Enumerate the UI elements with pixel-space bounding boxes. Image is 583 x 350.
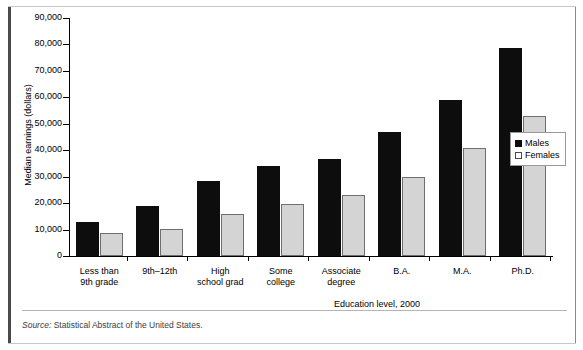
bar-females-6 — [463, 148, 486, 256]
bar-males-6 — [439, 100, 462, 256]
legend-label-females: Females — [525, 149, 560, 161]
bar-females-4 — [342, 195, 365, 256]
y-axis-tick-label: 0 — [16, 251, 62, 260]
category-label-line: degree — [304, 277, 378, 288]
bar-females-0 — [100, 233, 123, 256]
bar-males-2 — [197, 181, 220, 256]
y-axis-tick-mark — [63, 124, 69, 125]
category-label-line: 9th grade — [62, 277, 136, 288]
y-axis-tick-label: 30,000 — [16, 172, 62, 181]
category-label-7: Ph.D. — [486, 266, 560, 277]
legend-entry-males: Males — [515, 137, 560, 149]
bar-males-4 — [318, 159, 341, 256]
bar-males-3 — [257, 166, 280, 256]
y-axis-tick-mark — [63, 256, 69, 257]
bar-females-1 — [160, 229, 183, 256]
y-axis-tick-mark — [63, 71, 69, 72]
y-axis-tick-labels: 010,00020,00030,00040,00050,00060,00070,… — [16, 0, 62, 260]
y-axis-tick-label: 60,000 — [16, 92, 62, 101]
y-axis-tick-mark — [63, 44, 69, 45]
figure-bar-chart-median-earnings: Median earnings (dollars) 010,00020,0003… — [0, 0, 583, 350]
x-axis-title: Education level, 2000 — [277, 299, 477, 309]
legend-label-males: Males — [525, 137, 549, 149]
x-axis-tick-mark — [369, 257, 370, 261]
legend-entry-females: Females — [515, 149, 560, 161]
bar-males-1 — [136, 206, 159, 256]
x-axis-tick-mark — [490, 257, 491, 261]
y-axis-tick-label: 40,000 — [16, 145, 62, 154]
y-axis-tick-label: 20,000 — [16, 198, 62, 207]
y-axis-tick-label: 70,000 — [16, 66, 62, 75]
source-prefix: Source: — [22, 320, 51, 330]
y-axis-tick-mark — [63, 97, 69, 98]
bar-males-5 — [378, 132, 401, 256]
y-axis-tick-label: 50,000 — [16, 119, 62, 128]
chart-legend: Males Females — [510, 132, 566, 166]
y-axis-tick-label: 80,000 — [16, 39, 62, 48]
legend-swatch-males-icon — [515, 140, 522, 147]
y-axis-tick-mark — [63, 230, 69, 231]
x-axis-tick-mark — [248, 257, 249, 261]
bar-males-0 — [76, 222, 99, 256]
y-axis-tick-label: 90,000 — [16, 13, 62, 22]
y-axis-tick-mark — [63, 150, 69, 151]
y-axis-tick-mark — [63, 177, 69, 178]
x-axis-tick-mark — [550, 257, 551, 261]
y-axis-tick-mark — [63, 203, 69, 204]
x-axis-tick-mark — [127, 257, 128, 261]
x-axis-tick-mark — [308, 257, 309, 261]
y-axis-line — [69, 18, 70, 257]
x-axis-tick-mark — [187, 257, 188, 261]
category-label-line: Ph.D. — [486, 266, 560, 277]
source-text: Statistical Abstract of the United State… — [54, 320, 203, 330]
plot-area: Median earnings (dollars) 010,00020,0003… — [0, 0, 583, 350]
y-axis-tick-mark — [63, 18, 69, 19]
bar-females-2 — [221, 214, 244, 256]
legend-swatch-females-icon — [515, 152, 522, 159]
source-note: Source: Statistical Abstract of the Unit… — [22, 320, 203, 330]
x-axis-line — [69, 256, 553, 257]
bar-females-3 — [281, 204, 304, 256]
bar-females-5 — [402, 177, 425, 256]
x-axis-tick-mark — [429, 257, 430, 261]
y-axis-tick-label: 10,000 — [16, 225, 62, 234]
